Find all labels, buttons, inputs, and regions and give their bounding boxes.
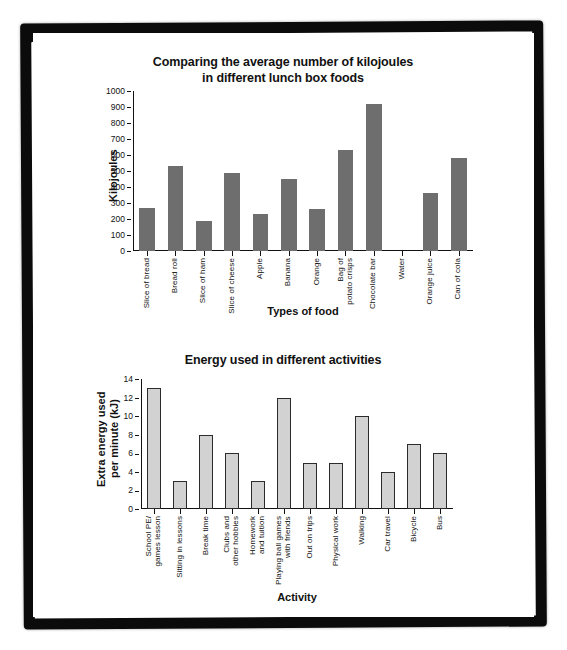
- chart2-plot-area: 02468101214: [141, 379, 453, 509]
- x-label-text: Walking: [358, 516, 367, 545]
- bar: [139, 208, 155, 251]
- x-label-text: Water: [398, 258, 407, 280]
- bar-slot: [275, 91, 303, 251]
- x-label: Bicycle: [401, 516, 427, 542]
- x-label: Bread roll: [161, 258, 189, 293]
- x-label: Orange: [303, 258, 331, 285]
- x-tick-mark-icon: [349, 509, 375, 514]
- chart2-y-tick: 8: [128, 430, 139, 440]
- y-tick-mark-icon: [127, 123, 131, 124]
- chart2-y-tick-label: 4: [128, 467, 133, 477]
- chart1-y-tick-label: 100: [111, 230, 125, 240]
- chart1-y-tick: 700: [111, 134, 131, 144]
- bar-slot: [219, 379, 245, 509]
- x-tick-mark-icon: [445, 251, 473, 256]
- bar: [199, 435, 214, 509]
- x-tick-mark-icon: [275, 251, 303, 256]
- chart1-y-tick-label: 900: [111, 102, 125, 112]
- chart1-y-tick: 600: [111, 150, 131, 160]
- x-label: Banana: [275, 258, 303, 286]
- x-label-text: Orange juice: [426, 258, 435, 305]
- y-tick-mark-icon: [127, 155, 131, 156]
- x-tick-mark-icon: [193, 509, 219, 514]
- bar-slot: [190, 91, 218, 251]
- x-tick-mark-icon: [245, 509, 271, 514]
- x-label-text: Bread roll: [171, 258, 180, 293]
- x-label: Out on trips: [297, 516, 323, 559]
- x-label-text: Bicycle: [410, 516, 419, 542]
- x-label-text: Apple: [256, 258, 265, 279]
- chart1-y-tick-label: 200: [111, 214, 125, 224]
- bar: [147, 388, 162, 509]
- chart1-y-tick: 400: [111, 182, 131, 192]
- bar: [281, 179, 297, 251]
- chart1-y-ticks: 01002003004005006007008009001000: [101, 91, 131, 251]
- x-label: Orange juice: [416, 258, 444, 305]
- bar: [423, 193, 439, 251]
- x-label-text: Chocolate bar: [369, 258, 378, 309]
- chart1-plot-area: 01002003004005006007008009001000: [133, 91, 473, 251]
- x-label-text: School PE/ games lesson: [145, 516, 163, 567]
- bar: [433, 453, 448, 509]
- bar-slot: [416, 91, 444, 251]
- chart1-y-tick-label: 700: [111, 134, 125, 144]
- y-tick-mark-icon: [127, 251, 131, 252]
- bar-slot: [271, 379, 297, 509]
- chart1-title: Comparing the average number of kilojoul…: [63, 55, 503, 86]
- y-tick-mark-icon: [135, 491, 139, 492]
- bar: [168, 166, 184, 251]
- kilojoules-chart: Comparing the average number of kilojoul…: [33, 33, 534, 323]
- y-tick-mark-icon: [135, 472, 139, 473]
- bar-slot: [297, 379, 323, 509]
- chart2-x-ticks: [141, 509, 453, 514]
- chart1-y-tick-label: 800: [111, 118, 125, 128]
- x-label-text: Orange: [313, 258, 322, 285]
- x-label: Walking: [349, 516, 375, 545]
- chart2-y-ticks: 02468101214: [117, 379, 139, 509]
- x-label-text: Break time: [202, 516, 211, 555]
- x-label-text: Sitting in lessons: [176, 516, 185, 578]
- bar: [173, 481, 188, 509]
- chart2-x-labels: School PE/ games lessonSitting in lesson…: [141, 516, 453, 585]
- chart1-y-tick-label: 0: [120, 246, 125, 256]
- x-label: Bag of potato crisps: [331, 258, 359, 305]
- y-tick-mark-icon: [135, 435, 139, 436]
- x-label-text: Clubs and other hobbies: [223, 516, 241, 566]
- chart1-y-tick-label: 600: [111, 150, 125, 160]
- bar-slot: [133, 91, 161, 251]
- bar: [355, 416, 370, 509]
- chart1-y-tick: 0: [120, 246, 131, 256]
- y-tick-mark-icon: [127, 91, 131, 92]
- x-label-text: Banana: [284, 258, 293, 286]
- chart2-y-tick-label: 6: [128, 448, 133, 458]
- chart2-y-tick: 14: [124, 374, 139, 384]
- y-tick-mark-icon: [127, 171, 131, 172]
- bar: [196, 221, 212, 251]
- bar-slot: [161, 91, 189, 251]
- chart1-y-tick-label: 400: [111, 182, 125, 192]
- x-tick-mark-icon: [219, 509, 245, 514]
- bar: [225, 453, 240, 509]
- bar: [407, 444, 422, 509]
- bar: [303, 463, 318, 509]
- chart1-y-tick: 100: [111, 230, 131, 240]
- chart2-x-axis-title: Activity: [141, 591, 453, 603]
- chart1-y-tick: 900: [111, 102, 131, 112]
- x-label: Sitting in lessons: [167, 516, 193, 578]
- x-tick-mark-icon: [388, 251, 416, 256]
- chart1-y-tick: 200: [111, 214, 131, 224]
- y-tick-mark-icon: [127, 187, 131, 188]
- x-tick-mark-icon: [401, 509, 427, 514]
- worksheet-paper: Comparing the average number of kilojoul…: [33, 33, 534, 617]
- x-tick-mark-icon: [303, 251, 331, 256]
- x-tick-mark-icon: [360, 251, 388, 256]
- x-label-text: Physical work: [332, 516, 341, 566]
- x-tick-mark-icon: [218, 251, 246, 256]
- x-label: Slice of bread: [133, 258, 161, 308]
- chart2-y-tick-label: 0: [128, 504, 133, 514]
- bar-slot: [375, 379, 401, 509]
- chart2-bars: [141, 379, 453, 509]
- bar-slot: [445, 91, 473, 251]
- bar: [253, 214, 269, 251]
- chart1-bars: [133, 91, 473, 251]
